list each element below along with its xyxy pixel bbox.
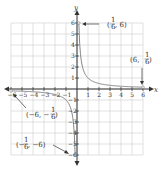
annotation-neg6-neg1-6: (−6, − 1 6 ) bbox=[13, 94, 58, 121]
svg-text:−6: −6 bbox=[68, 151, 77, 158]
svg-text:3: 3 bbox=[71, 52, 75, 59]
svg-text:4: 4 bbox=[71, 41, 75, 48]
svg-text:): ) bbox=[149, 56, 152, 64]
svg-text:2: 2 bbox=[97, 91, 101, 98]
svg-text:−2: −2 bbox=[68, 107, 77, 114]
svg-text:6: 6 bbox=[141, 91, 145, 98]
svg-text:−4: −4 bbox=[68, 129, 77, 136]
x-axis-label: x bbox=[154, 86, 158, 94]
svg-text:−3: −3 bbox=[68, 118, 77, 125]
svg-text:−3: −3 bbox=[41, 91, 50, 98]
svg-text:, −6): , −6) bbox=[28, 141, 46, 149]
svg-text:−5: −5 bbox=[68, 140, 77, 147]
annotation-neg1-6-neg6: (− 1 6 , −6) bbox=[16, 136, 69, 154]
chart: −6−5−4−3−2−1123456654321−1−2−3−4−5−6 y x… bbox=[0, 0, 163, 170]
svg-text:1: 1 bbox=[71, 74, 75, 81]
svg-text:5: 5 bbox=[130, 91, 134, 98]
svg-text:2: 2 bbox=[71, 63, 75, 70]
svg-text:(6,: (6, bbox=[130, 56, 139, 64]
svg-text:4: 4 bbox=[119, 91, 123, 98]
svg-text:5: 5 bbox=[71, 30, 75, 37]
svg-text:3: 3 bbox=[108, 91, 112, 98]
svg-text:(−6, −: (−6, − bbox=[26, 111, 50, 119]
svg-text:): ) bbox=[55, 111, 58, 119]
svg-text:1: 1 bbox=[86, 91, 90, 98]
svg-text:6: 6 bbox=[71, 19, 75, 26]
annotation-1-6-6: ( 1 6 , 6) bbox=[82, 16, 127, 31]
svg-text:−2: −2 bbox=[52, 91, 61, 98]
svg-text:, 6): , 6) bbox=[115, 21, 127, 29]
svg-text:−1: −1 bbox=[68, 96, 77, 103]
svg-text:−4: −4 bbox=[30, 91, 39, 98]
svg-text:−5: −5 bbox=[19, 91, 28, 98]
svg-text:(: ( bbox=[107, 21, 110, 29]
y-axis-label: y bbox=[73, 4, 79, 12]
